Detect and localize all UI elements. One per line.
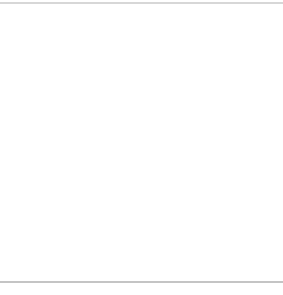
- normal-standardization-diagram: [0, 0, 283, 295]
